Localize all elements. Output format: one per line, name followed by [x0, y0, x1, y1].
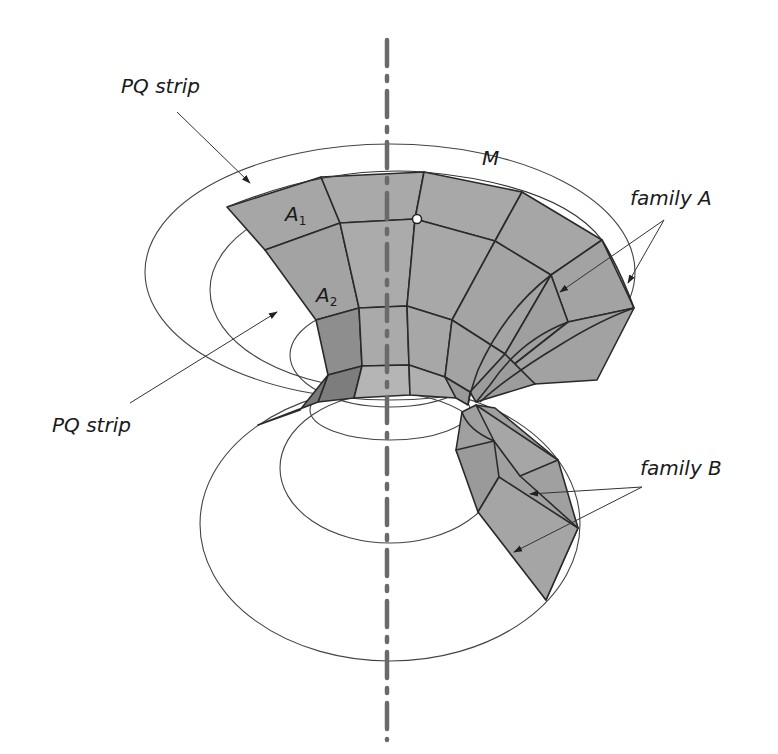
pq-strip-left-label: PQ strip [52, 413, 131, 437]
a1-label: A1 [285, 202, 306, 228]
lower-mesh-family-b [456, 405, 578, 600]
pq-strip-top-label: PQ strip [121, 74, 200, 98]
diagram-canvas [0, 0, 778, 754]
family-b-label: family B [640, 456, 722, 480]
a1-label-main: A [285, 202, 299, 226]
m-label: M [482, 146, 499, 170]
a2-label-subscript: 2 [330, 295, 338, 309]
a1-label-subscript: 1 [299, 214, 307, 228]
family-a-label: family A [630, 186, 712, 210]
a2-label-main: A [316, 283, 330, 307]
a2-label: A2 [316, 283, 337, 309]
point-marker [413, 215, 422, 224]
